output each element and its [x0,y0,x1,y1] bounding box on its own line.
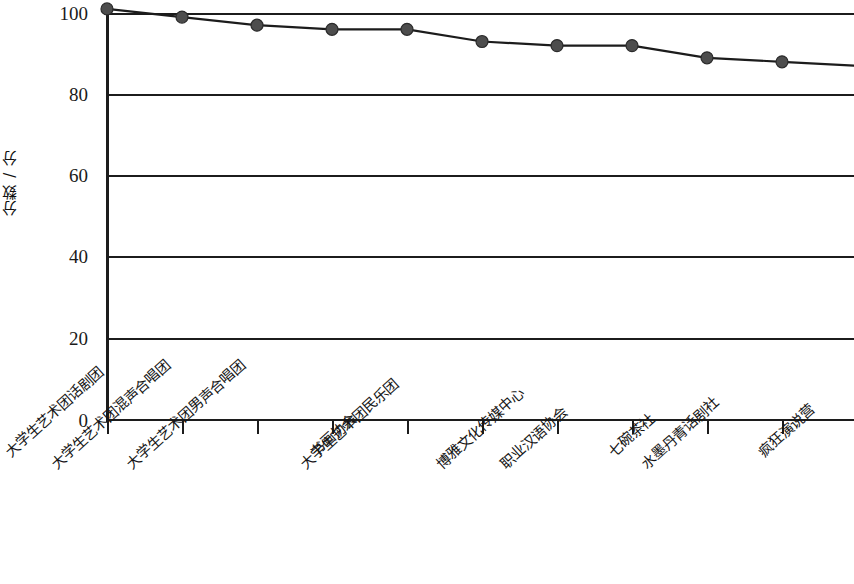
x-tick-2 [257,420,259,434]
gridline-60 [108,175,854,177]
gridline-100 [108,13,854,15]
plot-area [108,13,854,420]
y-axis-line [106,11,109,422]
y-tick-label-80: 80 [36,85,88,104]
x-tick-8 [707,420,709,434]
line-chart: 分数 / 分 100 80 60 40 20 0 大学生艺术团话剧团 大学生艺术… [0,0,854,584]
gridline-80 [108,94,854,96]
gridline-40 [108,256,854,258]
x-category-label-0: 大学生艺术团话剧团 [2,364,106,460]
y-tick-label-20: 20 [36,329,88,348]
y-tick-label-100: 100 [36,4,88,23]
y-axis-title: 分数 / 分 [2,150,36,216]
y-tick-label-40: 40 [36,247,88,266]
gridline-20 [108,338,854,340]
y-tick-label-60: 60 [36,166,88,185]
x-tick-4 [407,420,409,434]
